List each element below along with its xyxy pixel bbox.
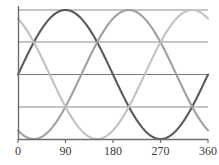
waveform-plot <box>0 0 219 165</box>
gridlines-group <box>18 10 208 107</box>
x-tick-label-360: 360 <box>199 145 217 157</box>
x-tick-label-270: 270 <box>152 145 170 157</box>
x-tick-label-180: 180 <box>104 145 122 157</box>
chart-container: 0 90 180 270 360 <box>0 0 219 165</box>
x-tick-label-90: 90 <box>60 145 72 157</box>
x-tick-label-0: 0 <box>15 145 21 157</box>
